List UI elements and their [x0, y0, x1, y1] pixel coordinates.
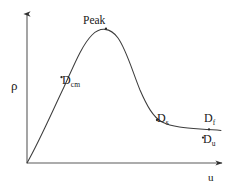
fundamental-diagram-figure: ρ u Peak Dcm Ds Df Du	[0, 0, 245, 191]
density-speed-curve	[27, 29, 221, 163]
peak-label: Peak	[83, 15, 105, 27]
d-cm-base: D	[62, 73, 71, 87]
x-axis-label: u	[208, 172, 214, 183]
marker-peak	[105, 27, 107, 29]
d-u-subscript: u	[212, 139, 216, 148]
d-s-subscript: s	[166, 118, 169, 127]
plot-canvas	[0, 0, 245, 191]
d-u-base: D	[203, 132, 212, 146]
d-f-subscript: f	[213, 118, 216, 127]
d-f-base: D	[204, 111, 213, 125]
d-s-base: D	[157, 111, 166, 125]
d-u-label: Du	[203, 133, 216, 145]
d-s-label: Ds	[157, 112, 169, 124]
y-axis-label: ρ	[11, 79, 18, 92]
marker-d-f	[208, 128, 210, 130]
d-cm-label: Dcm	[62, 74, 80, 86]
d-cm-subscript: cm	[71, 80, 81, 89]
d-f-label: Df	[204, 112, 215, 124]
